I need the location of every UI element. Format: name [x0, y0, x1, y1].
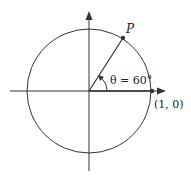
label-p: P [126, 22, 134, 36]
y-axis-arrow-icon [86, 11, 93, 20]
point-p [121, 36, 125, 40]
label-one-zero: (1, 0) [154, 98, 184, 111]
unit-circle-diagram: P θ = 60° (1, 0) [0, 0, 191, 181]
x-axis-arrow-icon [157, 88, 166, 95]
label-angle: θ = 60° [110, 74, 152, 87]
diagram-canvas [0, 0, 191, 181]
point-one-zero [150, 89, 154, 93]
